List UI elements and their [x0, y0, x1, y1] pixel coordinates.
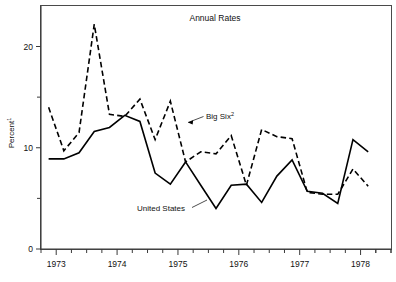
x-axis: 197319741975197619771978: [41, 249, 391, 269]
y-tick-label: 10: [24, 143, 34, 153]
series-line-big-six: [49, 24, 369, 194]
big-six-label-superscript: 2: [231, 111, 234, 117]
svg-text:Big Six2: Big Six2: [206, 111, 234, 122]
united-states-leader-line: [192, 200, 207, 208]
x-tick-label: 1976: [229, 259, 248, 269]
x-tick-label: 1974: [108, 259, 127, 269]
y-tick-label: 20: [24, 42, 34, 52]
big-six-arrowhead: [188, 120, 193, 124]
svg-text:Percent1: Percent1: [6, 118, 16, 149]
annotation-united-states: United States: [137, 200, 207, 213]
y-axis-label: Percent1: [6, 118, 16, 149]
y-axis-label-superscript: 1: [6, 118, 12, 121]
big-six-label-text: Big Six: [206, 112, 231, 121]
y-axis-label-text: Percent: [7, 120, 16, 148]
x-tick-label: 1978: [351, 259, 370, 269]
annotation-big-six: Big Six2: [188, 111, 234, 125]
x-tick-label: 1973: [47, 259, 66, 269]
y-tick-label: 0: [28, 244, 33, 254]
plot-frame: [41, 6, 392, 250]
x-tick-label: 1975: [168, 259, 187, 269]
chart-title: Annual Rates: [189, 13, 240, 23]
united-states-label-text: United States: [137, 204, 185, 213]
line-chart-svg: Annual Rates Percent1 01020 197319741975…: [0, 0, 396, 282]
chart-figure: Annual Rates Percent1 01020 197319741975…: [0, 0, 396, 282]
x-tick-label: 1977: [290, 259, 309, 269]
y-axis: 01020: [24, 6, 41, 254]
